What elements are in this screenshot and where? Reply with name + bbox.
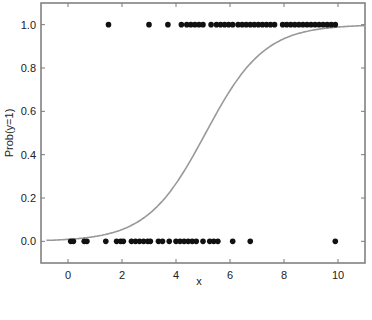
data-point xyxy=(215,239,221,245)
y-tick-label: 0.8 xyxy=(21,62,36,74)
data-point xyxy=(106,22,112,28)
data-point xyxy=(71,239,77,245)
data-point xyxy=(333,239,339,245)
data-point xyxy=(200,239,206,245)
data-point xyxy=(179,22,185,28)
data-point xyxy=(200,22,206,28)
data-points xyxy=(68,22,338,244)
x-tick-label: 4 xyxy=(173,269,179,281)
data-point xyxy=(103,239,109,245)
chart: 0.00.20.40.60.81.0 0246810 x Prob(y=1) xyxy=(0,0,372,320)
y-axis-ticks: 0.00.20.40.60.81.0 xyxy=(21,19,365,248)
y-tick-label: 0.2 xyxy=(21,192,36,204)
y-axis-label: Prob(y=1) xyxy=(3,109,15,158)
logistic-fit-curve xyxy=(46,26,365,241)
plot-frame xyxy=(41,3,365,263)
data-point xyxy=(208,22,214,28)
data-point xyxy=(230,239,236,245)
data-point xyxy=(121,239,127,245)
y-tick-label: 1.0 xyxy=(21,19,36,31)
data-point xyxy=(146,22,152,28)
x-tick-label: 0 xyxy=(65,269,71,281)
data-point xyxy=(165,22,171,28)
x-tick-label: 2 xyxy=(119,269,125,281)
plot-area: 0.00.20.40.60.81.0 0246810 xyxy=(21,3,365,281)
x-tick-label: 6 xyxy=(227,269,233,281)
data-point xyxy=(333,22,339,28)
y-tick-label: 0.6 xyxy=(21,105,36,117)
data-point xyxy=(160,239,166,245)
data-point xyxy=(247,239,253,245)
data-point xyxy=(148,239,154,245)
data-point xyxy=(193,239,199,245)
x-tick-label: 8 xyxy=(281,269,287,281)
x-axis-label: x xyxy=(196,275,202,287)
x-tick-label: 10 xyxy=(332,269,344,281)
data-point xyxy=(272,22,278,28)
y-tick-label: 0.0 xyxy=(21,235,36,247)
y-tick-label: 0.4 xyxy=(21,149,36,161)
data-point xyxy=(230,22,236,28)
data-point xyxy=(84,239,90,245)
data-point xyxy=(166,239,172,245)
